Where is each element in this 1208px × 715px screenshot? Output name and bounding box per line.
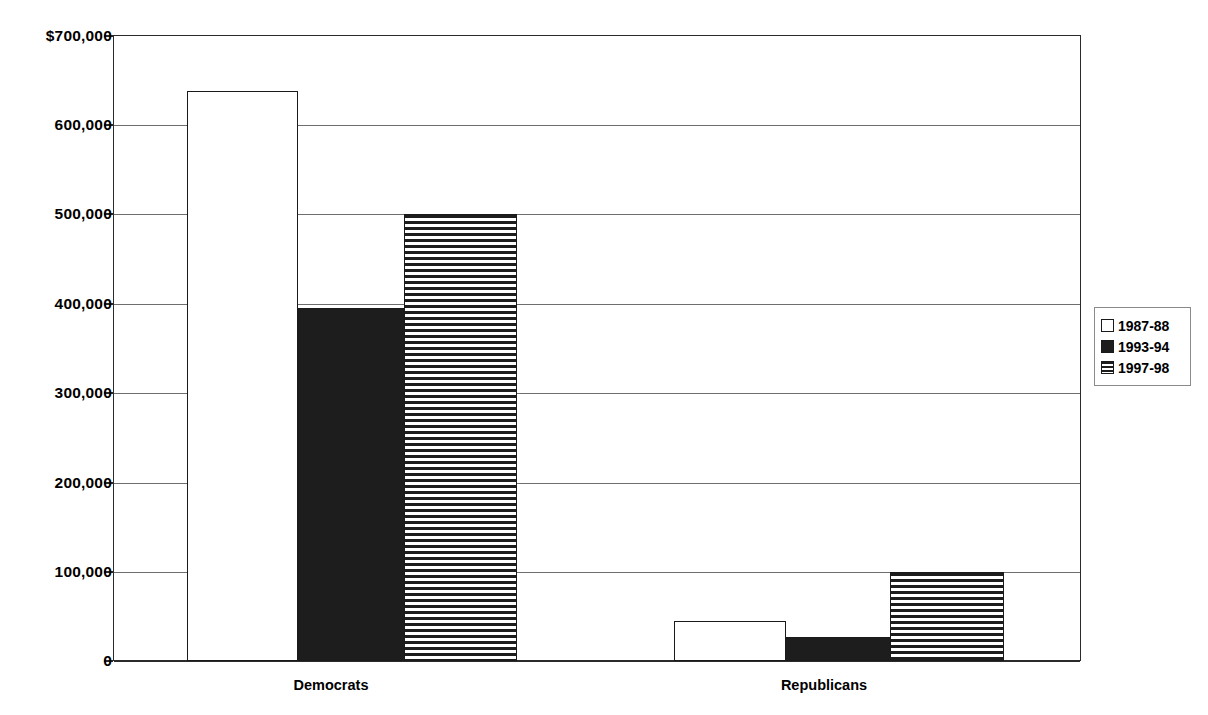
legend-item-1987-88: 1987-88 bbox=[1101, 315, 1185, 336]
bar-chart: $700,000 600,000 500,000 400,000 300,000… bbox=[0, 0, 1208, 715]
bar-democrats-1997-98 bbox=[404, 214, 517, 661]
x-axis-label-democrats: Democrats bbox=[236, 678, 426, 693]
plot-area bbox=[113, 35, 1081, 661]
bar-republicans-1997-98 bbox=[890, 572, 1004, 661]
y-axis-label-400000: 400,000 bbox=[55, 296, 112, 312]
bar-republicans-1993-94 bbox=[785, 637, 896, 661]
x-axis-label-republicans: Republicans bbox=[729, 678, 919, 693]
legend-swatch-icon-1993-94 bbox=[1101, 340, 1114, 353]
y-axis-label-200000: 200,000 bbox=[55, 475, 112, 491]
y-axis-label-600000: 600,000 bbox=[55, 117, 112, 133]
y-axis-label-300000: 300,000 bbox=[55, 385, 112, 401]
y-axis-label-0: 0 bbox=[103, 653, 112, 669]
bar-democrats-1987-88 bbox=[187, 91, 298, 661]
legend-item-1997-98: 1997-98 bbox=[1101, 357, 1185, 378]
legend-label-1993-94: 1993-94 bbox=[1118, 340, 1169, 354]
y-axis-label-700000: $700,000 bbox=[46, 28, 112, 44]
legend-swatch-icon-1997-98 bbox=[1101, 361, 1114, 374]
bar-democrats-1993-94 bbox=[298, 308, 409, 661]
legend-label-1987-88: 1987-88 bbox=[1118, 319, 1169, 333]
legend-label-1997-98: 1997-98 bbox=[1118, 361, 1169, 375]
legend-swatch-icon-1987-88 bbox=[1101, 319, 1114, 332]
y-axis-label-100000: 100,000 bbox=[55, 564, 112, 580]
legend-item-1993-94: 1993-94 bbox=[1101, 336, 1185, 357]
bar-republicans-1987-88 bbox=[674, 621, 786, 661]
legend: 1987-88 1993-94 1997-98 bbox=[1094, 307, 1191, 386]
y-axis-label-500000: 500,000 bbox=[55, 206, 112, 222]
